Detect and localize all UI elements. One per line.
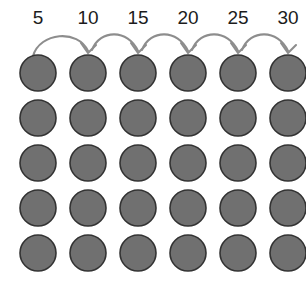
counter-dot [270, 100, 306, 136]
counter-row-3 [20, 145, 306, 181]
counter-dot [270, 145, 306, 181]
count-label-5: 25 [227, 7, 248, 28]
counter-dot [170, 55, 206, 91]
counter-dot [220, 235, 256, 271]
counter-dot [120, 145, 156, 181]
counter-dot [20, 145, 56, 181]
counter-dot [270, 235, 306, 271]
hop-arrow-group [33, 34, 296, 56]
figure-canvas: 5 10 15 20 25 30 [0, 0, 306, 302]
counter-dot [20, 100, 56, 136]
skip-counting-diagram: 5 10 15 20 25 30 [0, 0, 306, 302]
counter-row-1 [20, 55, 306, 91]
counter-row-5 [20, 235, 306, 271]
count-label-2: 10 [77, 7, 98, 28]
counter-row-2 [20, 100, 306, 136]
hop-arrow-2 [92, 34, 146, 53]
counter-dot [220, 100, 256, 136]
counter-dot [120, 100, 156, 136]
hop-arrow-1 [33, 36, 96, 56]
counter-row-4 [20, 190, 306, 226]
counter-dot [220, 145, 256, 181]
counter-dot [20, 55, 56, 91]
counter-dot [220, 190, 256, 226]
counter-dot [120, 190, 156, 226]
counter-dot [170, 100, 206, 136]
counter-dot [120, 55, 156, 91]
count-label-3: 15 [127, 7, 148, 28]
hop-arrow-5 [242, 34, 296, 53]
counter-dot [170, 145, 206, 181]
counter-dot [70, 100, 106, 136]
counter-dot [70, 235, 106, 271]
counter-dot [70, 55, 106, 91]
counter-dot [20, 235, 56, 271]
counter-dot [220, 55, 256, 91]
counter-dot [20, 190, 56, 226]
counter-dot [70, 145, 106, 181]
hop-arrow-3 [142, 34, 196, 53]
counter-dot [270, 55, 306, 91]
count-label-group: 5 10 15 20 25 30 [33, 7, 299, 28]
counter-dot [70, 190, 106, 226]
counter-dot [270, 190, 306, 226]
count-label-1: 5 [33, 7, 44, 28]
count-label-4: 20 [177, 7, 198, 28]
count-label-6: 30 [277, 7, 298, 28]
counter-dot [170, 190, 206, 226]
hop-arrow-4 [192, 34, 246, 53]
counter-dot [120, 235, 156, 271]
counter-dot [170, 235, 206, 271]
